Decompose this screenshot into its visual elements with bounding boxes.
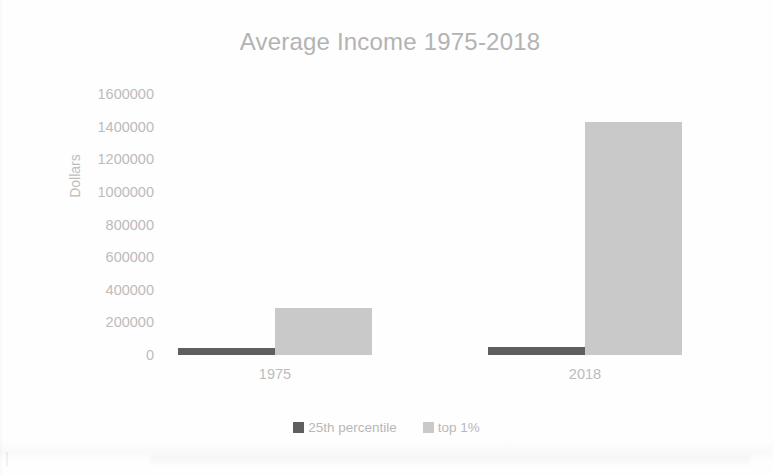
bar-chart: Average Income 1975-2018 Dollars 1600000… — [0, 0, 773, 475]
chart-legend: 25th percentiletop 1% — [0, 420, 773, 435]
legend-label: top 1% — [438, 420, 480, 435]
chart-title: Average Income 1975-2018 — [120, 28, 660, 56]
legend-swatch-icon — [423, 422, 434, 433]
x-axis-tick-label: 2018 — [569, 366, 601, 382]
legend-item: top 1% — [423, 420, 480, 435]
plot-area — [120, 94, 740, 355]
bar — [275, 308, 372, 355]
bar — [585, 122, 682, 355]
bar — [178, 348, 275, 355]
legend-item: 25th percentile — [293, 420, 397, 435]
legend-label: 25th percentile — [308, 420, 397, 435]
x-axis-tick-labels: 19752018 — [120, 366, 740, 388]
x-axis-tick-label: 1975 — [259, 366, 291, 382]
bar — [488, 347, 585, 355]
legend-swatch-icon — [293, 422, 304, 433]
